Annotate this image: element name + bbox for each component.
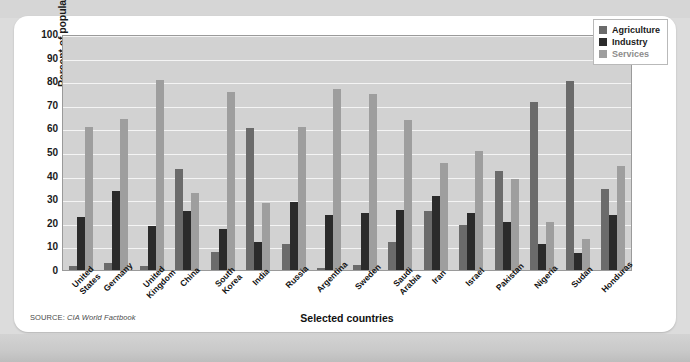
bar-services[interactable]	[262, 203, 270, 270]
y-tick-60: 60	[47, 124, 58, 134]
bar-services[interactable]	[333, 89, 341, 270]
bar-agriculture[interactable]	[424, 211, 432, 270]
bar-services[interactable]	[85, 127, 93, 270]
bar-industry[interactable]	[503, 222, 511, 270]
bar-groups	[63, 36, 631, 270]
plot-area	[62, 35, 632, 271]
bar-agriculture[interactable]	[282, 244, 290, 270]
legend-label-services: Services	[612, 49, 649, 59]
bar-agriculture[interactable]	[566, 81, 574, 270]
bar-group	[312, 36, 348, 270]
legend-item-industry[interactable]: Industry	[599, 36, 660, 48]
source-note: SOURCE: CIA World Factbook	[30, 313, 136, 322]
chart-card: Percent of population 100908070605040302…	[14, 16, 676, 332]
bar-industry[interactable]	[396, 210, 404, 270]
y-axis-tick-labels: 1009080706050403020100	[26, 35, 58, 271]
bar-industry[interactable]	[361, 213, 369, 270]
bar-services[interactable]	[475, 151, 483, 270]
y-tick-20: 20	[47, 219, 58, 229]
bar-agriculture[interactable]	[495, 171, 503, 270]
bar-agriculture[interactable]	[211, 252, 219, 270]
legend-item-agriculture[interactable]: Agriculture	[599, 24, 660, 36]
y-tick-10: 10	[47, 242, 58, 252]
bar-group	[596, 36, 632, 270]
bar-group	[347, 36, 383, 270]
bar-group	[383, 36, 419, 270]
bar-industry[interactable]	[538, 244, 546, 270]
y-tick-30: 30	[47, 195, 58, 205]
bar-services[interactable]	[120, 119, 128, 270]
y-tick-70: 70	[47, 101, 58, 111]
y-tick-100: 100	[41, 30, 58, 40]
x-axis-title: Selected countries	[62, 312, 632, 324]
bar-group	[489, 36, 525, 270]
bar-agriculture[interactable]	[104, 263, 112, 270]
bar-agriculture[interactable]	[459, 225, 467, 270]
bar-services[interactable]	[617, 166, 625, 270]
legend-item-services[interactable]: Services	[599, 48, 660, 60]
legend-swatch-industry-icon	[599, 38, 607, 46]
bar-group	[560, 36, 596, 270]
background-band-bottom	[0, 334, 690, 362]
bar-services[interactable]	[156, 80, 164, 270]
bar-agriculture[interactable]	[175, 169, 183, 270]
bar-agriculture[interactable]	[246, 128, 254, 270]
bar-industry[interactable]	[219, 229, 227, 270]
bar-group	[241, 36, 277, 270]
y-tick-80: 80	[47, 77, 58, 87]
bar-industry[interactable]	[290, 202, 298, 270]
legend-label-industry: Industry	[612, 37, 648, 47]
bar-group	[170, 36, 206, 270]
bar-services[interactable]	[511, 179, 519, 270]
bar-agriculture[interactable]	[317, 268, 325, 270]
bar-services[interactable]	[191, 193, 199, 270]
source-label: SOURCE:	[30, 313, 65, 322]
bar-group	[525, 36, 561, 270]
bar-agriculture[interactable]	[530, 102, 538, 270]
bar-services[interactable]	[404, 120, 412, 270]
bar-industry[interactable]	[467, 213, 475, 270]
bar-industry[interactable]	[609, 215, 617, 270]
source-value: CIA World Factbook	[67, 313, 136, 322]
bar-group	[99, 36, 135, 270]
y-tick-0: 0	[52, 266, 58, 276]
bar-group	[276, 36, 312, 270]
bar-industry[interactable]	[148, 226, 156, 270]
legend-label-agriculture: Agriculture	[612, 25, 660, 35]
chart-legend: AgricultureIndustryServices	[593, 19, 668, 65]
bar-group	[134, 36, 170, 270]
y-tick-50: 50	[47, 148, 58, 158]
legend-swatch-services-icon	[599, 50, 607, 58]
bar-industry[interactable]	[574, 253, 582, 270]
bar-industry[interactable]	[183, 211, 191, 270]
bar-industry[interactable]	[432, 196, 440, 270]
bar-services[interactable]	[298, 127, 306, 270]
bar-group	[454, 36, 490, 270]
bar-group	[205, 36, 241, 270]
bar-agriculture[interactable]	[69, 266, 77, 270]
bar-agriculture[interactable]	[140, 266, 148, 270]
bar-group	[418, 36, 454, 270]
bar-services[interactable]	[440, 163, 448, 270]
y-tick-40: 40	[47, 172, 58, 182]
bar-services[interactable]	[227, 92, 235, 270]
bar-agriculture[interactable]	[388, 242, 396, 270]
bar-industry[interactable]	[112, 191, 120, 270]
bar-industry[interactable]	[77, 217, 85, 270]
bar-services[interactable]	[369, 94, 377, 270]
y-tick-90: 90	[47, 54, 58, 64]
bar-group	[63, 36, 99, 270]
legend-swatch-agriculture-icon	[599, 26, 607, 34]
plot-area-wrapper: Percent of population 100908070605040302…	[62, 35, 632, 271]
bar-agriculture[interactable]	[601, 189, 609, 270]
bar-industry[interactable]	[325, 215, 333, 270]
x-tick-label: Iran	[431, 268, 449, 286]
bar-industry[interactable]	[254, 242, 262, 270]
bar-agriculture[interactable]	[353, 265, 361, 270]
